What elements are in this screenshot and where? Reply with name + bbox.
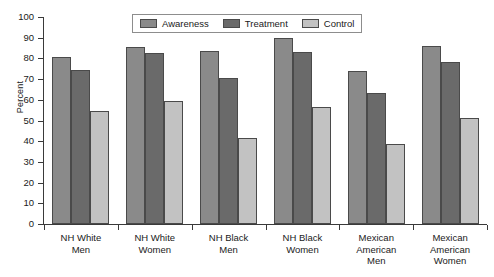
bar-control [312, 107, 331, 224]
bar-awareness [348, 71, 367, 224]
legend-item: Control [302, 19, 355, 29]
bar-group [274, 17, 331, 224]
bar-control [238, 138, 257, 224]
y-axis-tick-label: 100 [0, 12, 34, 22]
bar-awareness [200, 51, 219, 224]
legend-swatch-treatment [223, 19, 240, 28]
x-axis-group-label: NH BlackWomen [266, 232, 340, 255]
x-axis-group-label-line: NH Black [266, 232, 340, 244]
x-axis-group-label: MexicanAmericanWomen [413, 232, 487, 267]
x-axis-group-label-line: Mexican [339, 232, 413, 244]
bar-group [348, 17, 405, 224]
bar-treatment [145, 53, 164, 224]
legend-item: Awareness [140, 19, 209, 29]
bar-chart: Percent 0102030405060708090100 NH WhiteM… [0, 0, 494, 277]
x-axis-tick [192, 225, 193, 230]
y-axis-tick-label: 20 [0, 178, 34, 188]
bar-group [126, 17, 183, 224]
x-axis-group-label-line: Men [192, 244, 266, 256]
bar-group [52, 17, 109, 224]
x-axis-group-label-line: NH White [118, 232, 192, 244]
legend-label: Control [324, 19, 355, 29]
bar-treatment [219, 78, 238, 224]
legend-item: Treatment [223, 19, 288, 29]
y-axis-tick-label: 60 [0, 95, 34, 105]
x-axis-group-label-line: Women [118, 244, 192, 256]
x-axis-tick [44, 225, 45, 230]
x-axis-tick [487, 225, 488, 230]
bar-awareness [126, 47, 145, 224]
x-axis-group-label: NH WhiteWomen [118, 232, 192, 255]
x-axis-group-label-line: Mexican [413, 232, 487, 244]
bar-treatment [293, 52, 312, 224]
y-axis-tick [38, 58, 43, 59]
bar-control [460, 118, 479, 224]
x-axis-group-label-line: NH White [44, 232, 118, 244]
plot-area [44, 17, 487, 224]
legend-label: Treatment [245, 19, 288, 29]
y-axis-tick [38, 203, 43, 204]
y-axis-tick-label: 10 [0, 198, 34, 208]
bar-treatment [367, 93, 386, 224]
y-axis-tick [38, 183, 43, 184]
legend-swatch-awareness [140, 19, 157, 28]
y-axis-tick-label: 0 [0, 219, 34, 229]
y-axis-tick [38, 100, 43, 101]
legend-label: Awareness [162, 19, 209, 29]
bar-awareness [422, 46, 441, 224]
y-axis-tick-label: 90 [0, 33, 34, 43]
x-axis-group-label: NH WhiteMen [44, 232, 118, 255]
y-axis-tick [38, 79, 43, 80]
bar-treatment [71, 70, 90, 224]
y-axis-tick-label: 30 [0, 157, 34, 167]
y-axis-tick-label: 40 [0, 136, 34, 146]
x-axis-tick [413, 225, 414, 230]
x-axis-group-label-line: Men [44, 244, 118, 256]
y-axis-tick [38, 17, 43, 18]
bar-awareness [274, 38, 293, 224]
y-axis-tick-label: 50 [0, 116, 34, 126]
bar-treatment [441, 62, 460, 224]
chart-legend: AwarenessTreatmentControl [132, 14, 362, 33]
x-axis-group-label-line: Women [413, 255, 487, 267]
x-axis-tick [266, 225, 267, 230]
x-axis-group-label: MexicanAmericanMen [339, 232, 413, 267]
y-axis-tick [38, 162, 43, 163]
bar-awareness [52, 57, 71, 224]
bar-control [90, 111, 109, 224]
legend-swatch-control [302, 19, 319, 28]
bar-group [422, 17, 479, 224]
y-axis-tick-label: 80 [0, 53, 34, 63]
x-axis-tick [118, 225, 119, 230]
x-axis-group-label-line: Women [266, 244, 340, 256]
bar-control [164, 101, 183, 224]
x-axis-group-label-line: Men [339, 255, 413, 267]
bar-group [200, 17, 257, 224]
y-axis-tick [38, 121, 43, 122]
y-axis-tick [38, 38, 43, 39]
y-axis-tick-label: 70 [0, 74, 34, 84]
x-axis-group-label: NH BlackMen [192, 232, 266, 255]
x-axis-tick [339, 225, 340, 230]
y-axis-tick [38, 141, 43, 142]
x-axis-group-label-line: American [413, 244, 487, 256]
x-axis-group-label-line: American [339, 244, 413, 256]
bar-control [386, 144, 405, 224]
x-axis-group-label-line: NH Black [192, 232, 266, 244]
